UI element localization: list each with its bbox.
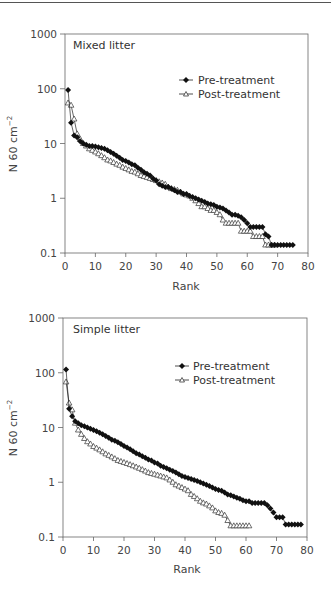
svg-text:100: 100 xyxy=(37,83,57,95)
chart-mixed-litter: Mixed litter 0.11101001000 0102030405060… xyxy=(0,0,331,300)
svg-text:60: 60 xyxy=(241,260,254,272)
filled-diamond-icon xyxy=(183,77,189,83)
svg-text:0: 0 xyxy=(60,544,67,556)
svg-text:0: 0 xyxy=(62,260,69,272)
y-axis-title-sup: −2 xyxy=(6,116,14,126)
svg-text:0.1: 0.1 xyxy=(40,247,57,259)
svg-text:20: 20 xyxy=(119,260,132,272)
x-axis-title: Rank xyxy=(173,563,201,576)
y-ticks: 0.11101001000 xyxy=(28,312,63,543)
svg-text:20: 20 xyxy=(117,544,130,556)
legend: Pre-treatment Post-treatment xyxy=(179,74,281,101)
svg-text:50: 50 xyxy=(209,544,222,556)
svg-text:100: 100 xyxy=(35,367,55,379)
x-ticks: 01020304050607080 xyxy=(62,253,315,272)
svg-text:70: 70 xyxy=(271,260,284,272)
svg-text:N 60 cm−2: N 60 cm−2 xyxy=(6,116,20,172)
plot-frame xyxy=(65,34,308,253)
series-post-treatment xyxy=(63,379,252,528)
svg-text:1000: 1000 xyxy=(28,312,55,324)
series-pre-treatment xyxy=(65,87,296,248)
svg-text:40: 40 xyxy=(178,544,191,556)
x-ticks: 01020304050607080 xyxy=(60,537,314,556)
y-axis-title: N 60 cm−2 xyxy=(6,400,20,456)
svg-text:50: 50 xyxy=(210,260,223,272)
svg-text:1: 1 xyxy=(48,476,55,488)
svg-text:10: 10 xyxy=(87,544,100,556)
plot-frame xyxy=(63,318,307,537)
panel-title: Simple litter xyxy=(73,323,141,336)
y-axis-title-main: N 60 cm xyxy=(7,410,20,456)
svg-text:30: 30 xyxy=(148,544,161,556)
svg-text:80: 80 xyxy=(301,260,314,272)
filled-diamond-icon xyxy=(179,363,185,369)
legend-label-post: Post-treatment xyxy=(193,374,276,387)
y-ticks: 0.11101001000 xyxy=(30,28,65,259)
legend-label-pre: Pre-treatment xyxy=(193,360,270,373)
y-axis-title: N 60 cm−2 xyxy=(6,116,20,172)
x-axis-title: Rank xyxy=(172,280,200,293)
y-axis-title-main: N 60 cm xyxy=(7,126,20,172)
series-pre-treatment xyxy=(63,366,304,527)
series-post-treatment xyxy=(65,100,277,247)
legend-label-pre: Pre-treatment xyxy=(198,74,275,87)
legend-label-post: Post-treatment xyxy=(198,88,281,101)
panel-title: Mixed litter xyxy=(73,39,135,52)
svg-text:1: 1 xyxy=(50,192,57,204)
svg-text:80: 80 xyxy=(300,544,313,556)
chart-simple-litter: Simple litter 0.11101001000 010203040506… xyxy=(0,300,331,605)
svg-text:10: 10 xyxy=(89,260,102,272)
y-axis-title-sup: −2 xyxy=(6,400,14,410)
legend: Pre-treatment Post-treatment xyxy=(175,360,276,387)
svg-text:60: 60 xyxy=(239,544,252,556)
svg-text:70: 70 xyxy=(270,544,283,556)
svg-text:10: 10 xyxy=(44,138,57,150)
svg-text:10: 10 xyxy=(42,422,55,434)
svg-text:N 60 cm−2: N 60 cm−2 xyxy=(6,400,20,456)
svg-text:0.1: 0.1 xyxy=(38,531,55,543)
svg-text:1000: 1000 xyxy=(30,28,57,40)
svg-text:40: 40 xyxy=(180,260,193,272)
svg-text:30: 30 xyxy=(149,260,162,272)
